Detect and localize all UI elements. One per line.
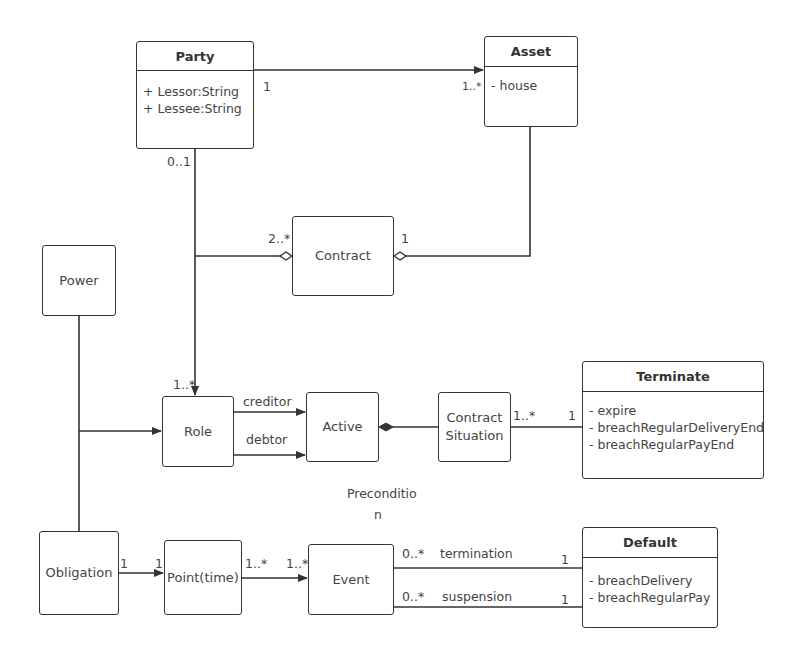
mult-termination-src: 0..* [402,547,424,561]
contract-asset-aggregation [405,127,530,256]
mult-role: 1..* [173,378,195,392]
mult-suspension-dst: 1 [561,593,569,607]
class-point-time[interactable]: Point(time) [164,540,242,615]
class-contract[interactable]: Contract [292,216,394,296]
class-party-name: Party [137,42,253,71]
label-termination: termination [440,547,513,561]
mult-contract-party: 2..* [268,232,290,246]
aggregation-diamond-left [280,252,292,260]
party-attr-lessee: + Lessee:String [143,100,247,117]
mult-party-role-src: 0..1 [167,155,191,169]
aggregation-diamond-right [394,252,406,260]
mult-obligation-src: 1 [120,557,128,571]
class-power[interactable]: Power [42,245,116,316]
composition-diamond [379,423,393,431]
class-role-name: Role [184,423,212,441]
mult-point-dst: 1 [155,557,163,571]
class-event[interactable]: Event [308,544,394,615]
class-default[interactable]: Default - breachDelivery - breachRegular… [582,527,718,628]
label-precondition-line1: Preconditio [347,487,417,501]
class-contract-situation-line2: Situation [445,427,503,445]
class-terminate-name: Terminate [583,362,763,392]
mult-party-asset-src: 1 [263,80,271,94]
uml-class-diagram: Party + Lessor:String + Lessee:String As… [0,0,803,663]
asset-attr-house: - house [491,77,571,94]
mult-party-asset-dst: 1..* [462,80,482,94]
mult-suspension-src: 0..* [402,590,424,604]
default-attr-breach-delivery: - breachDelivery [589,572,711,589]
mult-situation-src: 1..* [513,409,535,423]
label-creditor: creditor [243,395,292,409]
class-asset-name: Asset [485,37,577,67]
class-active[interactable]: Active [306,392,379,462]
class-contract-situation-line1: Contract [447,409,503,427]
label-precondition-line2: n [374,508,382,522]
class-event-name: Event [332,571,369,589]
class-point-time-name: Point(time) [167,569,239,587]
class-asset[interactable]: Asset - house [484,36,578,127]
class-obligation[interactable]: Obligation [39,531,119,615]
mult-point-src: 1..* [245,557,267,571]
default-attr-breach-regular-pay: - breachRegularPay [589,589,711,606]
mult-termination-dst: 1 [561,553,569,567]
class-default-name: Default [583,528,717,558]
class-role[interactable]: Role [162,396,234,467]
class-contract-situation[interactable]: Contract Situation [438,392,511,462]
mult-event-dst: 1..* [286,557,308,571]
label-suspension: suspension [442,590,512,604]
class-active-name: Active [322,418,362,436]
mult-situation-dst: 1 [568,409,576,423]
label-debtor: debtor [246,433,287,447]
terminate-attr-pay-end: - breachRegularPayEnd [589,436,757,453]
class-power-name: Power [59,272,98,290]
class-party[interactable]: Party + Lessor:String + Lessee:String [136,41,254,149]
terminate-attr-delivery-end: - breachRegularDeliveryEnd [589,419,757,436]
class-terminate[interactable]: Terminate - expire - breachRegularDelive… [582,361,764,479]
mult-contract-asset: 1 [401,232,409,246]
class-obligation-name: Obligation [46,564,113,582]
party-attr-lessor: + Lessor:String [143,83,247,100]
class-contract-name: Contract [315,247,371,265]
terminate-attr-expire: - expire [589,402,757,419]
